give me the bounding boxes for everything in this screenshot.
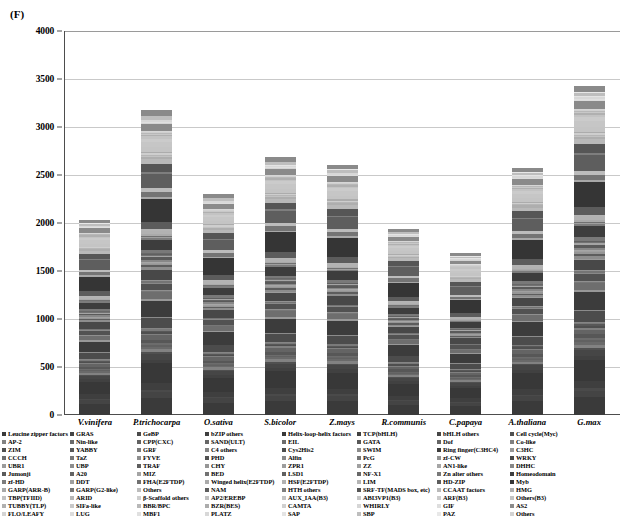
legend-item[interactable]: TCP(bHLH) — [357, 430, 437, 438]
legend-item[interactable]: ARF(B3) — [437, 494, 510, 502]
legend-item[interactable]: GARP(ARR-B) — [2, 486, 70, 494]
legend-item[interactable]: GRF — [137, 446, 205, 454]
legend-item[interactable]: Winged helix(E2FTDP) — [205, 478, 282, 486]
legend-item[interactable]: AP-2 — [2, 438, 70, 446]
legend-item[interactable]: ZZ — [357, 462, 437, 470]
legend-item[interactable]: Homeodomain — [510, 470, 582, 478]
legend-item[interactable]: HD-ZIP — [437, 478, 510, 486]
legend-item[interactable]: MIZ — [137, 470, 205, 478]
legend-item[interactable]: SIFa-like — [70, 502, 137, 510]
legend-item[interactable]: CPP(CXC) — [137, 438, 205, 446]
legend-item[interactable]: DHHC — [510, 462, 582, 470]
legend-item[interactable]: EIL — [282, 438, 357, 446]
legend-item[interactable]: TaZ — [70, 454, 137, 462]
legend-item[interactable]: UBP — [70, 462, 137, 470]
legend-swatch-icon — [282, 472, 286, 476]
legend-item[interactable]: AN1-like — [437, 462, 510, 470]
legend-item[interactable]: GRAS — [70, 430, 137, 438]
legend-item[interactable]: Others — [137, 486, 205, 494]
legend-item[interactable]: β-Scaffold others — [137, 494, 205, 502]
legend-item[interactable]: Myb — [510, 478, 582, 486]
legend-swatch-icon — [437, 496, 441, 500]
legend-item[interactable]: bHLH others — [437, 430, 510, 438]
legend-item[interactable]: SAND(ULT) — [205, 438, 282, 446]
legend-item[interactable]: FHA(E2FTDP) — [137, 478, 205, 486]
legend-item[interactable]: GATA — [357, 438, 437, 446]
legend-item[interactable]: Cys2His2 — [282, 446, 357, 454]
bar-segment — [450, 406, 481, 415]
legend-item[interactable]: PcG — [357, 454, 437, 462]
legend-item[interactable]: CHY — [205, 462, 282, 470]
legend-item[interactable]: AUX_IAA(B3) — [282, 494, 357, 502]
legend-item[interactable]: NF-X1 — [357, 470, 437, 478]
legend-item[interactable]: BED — [205, 470, 282, 478]
legend-item[interactable]: SAP — [282, 510, 357, 518]
legend-item[interactable]: FLO/LEAFY — [2, 510, 70, 518]
legend-item[interactable]: PLATZ — [205, 510, 282, 518]
legend-item[interactable]: FYVE — [137, 454, 205, 462]
legend-item[interactable]: zf-CW — [437, 454, 510, 462]
legend-item[interactable]: BZR(BES) — [205, 502, 282, 510]
legend-item[interactable]: Alfin — [282, 454, 357, 462]
legend-item[interactable]: Dof — [437, 438, 510, 446]
legend-item[interactable]: LSD1 — [282, 470, 357, 478]
legend-item[interactable]: SBP — [357, 510, 437, 518]
legend-item[interactable]: Others — [510, 510, 582, 518]
legend-item[interactable]: Others(B3) — [510, 494, 582, 502]
bar-segment — [574, 226, 605, 237]
legend-item[interactable]: Zn alter others — [437, 470, 510, 478]
legend-swatch-icon — [357, 432, 361, 436]
legend-item[interactable]: TUBBY(TLP) — [2, 502, 70, 510]
legend-item[interactable]: AS2 — [510, 502, 582, 510]
bar-segment — [327, 271, 358, 280]
bar-segment — [388, 283, 419, 297]
legend-item[interactable]: GARP(G2-like) — [70, 486, 137, 494]
legend-item[interactable]: TRAF — [137, 462, 205, 470]
legend-item[interactable]: HSF(E2FTDP) — [282, 478, 357, 486]
legend-item[interactable]: Jumonji — [2, 470, 70, 478]
legend-item[interactable]: SWIM — [357, 446, 437, 454]
legend-item[interactable]: ZIM — [2, 446, 70, 454]
legend-item[interactable]: C4 others — [205, 446, 282, 454]
legend-item[interactable]: ZPR1 — [282, 462, 357, 470]
legend-item[interactable]: CCAAT factors — [437, 486, 510, 494]
legend-swatch-icon — [282, 464, 286, 468]
legend-item[interactable]: ARID — [70, 494, 137, 502]
legend-item[interactable]: MBF1 — [137, 510, 205, 518]
legend-item[interactable]: zf-HD — [2, 478, 70, 486]
legend-item[interactable]: A20 — [70, 470, 137, 478]
legend-label: Homeodomain — [516, 470, 556, 478]
legend-item[interactable]: LIM — [357, 478, 437, 486]
legend-item[interactable]: YABBY — [70, 446, 137, 454]
legend-item[interactable]: TBP(TFIID) — [2, 494, 70, 502]
bar-segment — [574, 182, 605, 207]
legend-item[interactable]: WRKY — [510, 454, 582, 462]
legend-item[interactable]: AP2/EREBP — [205, 494, 282, 502]
legend-item[interactable]: Co-like — [510, 438, 582, 446]
legend-item[interactable]: Cell cycle(Myc) — [510, 430, 582, 438]
legend-item[interactable]: ABI3VP1(B3) — [357, 494, 437, 502]
legend-item[interactable]: GeBP — [137, 430, 205, 438]
legend-item[interactable]: Helix-loop-helix factors — [282, 430, 357, 438]
legend-item[interactable]: WHIRLY — [357, 502, 437, 510]
legend-item[interactable]: C3HC — [510, 446, 582, 454]
legend-item[interactable]: SRF-TF(MADS box, etc) — [357, 486, 437, 494]
legend-item[interactable]: UBR1 — [2, 462, 70, 470]
legend-item[interactable]: CAMTA — [282, 502, 357, 510]
legend-item[interactable]: HMG — [510, 486, 582, 494]
legend-item[interactable]: LUG — [70, 510, 137, 518]
legend-item[interactable]: HTH others — [282, 486, 357, 494]
legend-item[interactable]: Leucine zipper factors — [2, 430, 70, 438]
legend-item[interactable]: CCCH — [2, 454, 70, 462]
legend-item[interactable]: PAZ — [437, 510, 510, 518]
legend-item[interactable]: DDT — [70, 478, 137, 486]
legend-item[interactable]: Ring finger(C3HC4) — [437, 446, 510, 454]
legend-item[interactable]: GIF — [437, 502, 510, 510]
legend-item[interactable]: bZIP others — [205, 430, 282, 438]
legend-label: Cell cycle(Myc) — [516, 430, 558, 438]
legend-item[interactable]: PHD — [205, 454, 282, 462]
legend-item[interactable]: NAM — [205, 486, 282, 494]
legend-item[interactable]: Nin-like — [70, 438, 137, 446]
legend-item[interactable]: BBR/BPC — [137, 502, 205, 510]
legend-label: Cys2His2 — [288, 446, 314, 454]
